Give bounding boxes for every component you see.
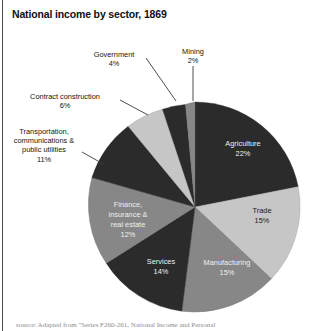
callout-contract-construction-name: Contract construction bbox=[18, 92, 112, 101]
slice-label-agriculture-value: 22% bbox=[236, 149, 251, 158]
callout-contract-construction-value: 6% bbox=[18, 101, 112, 110]
callout-government-name: Government bbox=[84, 50, 144, 59]
slice-label-agriculture-name: Agriculture bbox=[225, 139, 260, 148]
callout-mining: Mining 2% bbox=[164, 47, 222, 65]
slice-label-finance-line1: Finance, bbox=[114, 200, 142, 209]
slice-label-finance-line2: insurance & bbox=[108, 210, 147, 219]
slice-label-manufacturing-value: 15% bbox=[220, 268, 235, 277]
slice-label-trade-value: 15% bbox=[255, 216, 270, 225]
callout-government-value: 4% bbox=[84, 59, 144, 68]
slice-label-trade-name: Trade bbox=[252, 206, 271, 215]
callout-transportation-value: 11% bbox=[8, 155, 80, 164]
callout-transportation-line2: communications & bbox=[8, 136, 80, 145]
callout-contract-construction: Contract construction 6% bbox=[18, 92, 112, 110]
callout-mining-name: Mining bbox=[164, 47, 222, 56]
callout-transportation-line3: public utilities bbox=[8, 145, 80, 154]
callout-transportation-line1: Transportation, bbox=[8, 127, 80, 136]
slice-label-trade: Trade 15% bbox=[252, 206, 271, 225]
slice-label-services-name: Services bbox=[147, 257, 176, 266]
slice-label-finance-value: 12% bbox=[121, 230, 136, 239]
callout-mining-value: 2% bbox=[164, 56, 222, 65]
pie-chart: Agriculture 22% Trade 15% Manufacturing … bbox=[0, 0, 315, 331]
callout-transportation: Transportation, communications & public … bbox=[8, 127, 80, 164]
source-note: source: Adapted from "Series F260-261, N… bbox=[16, 321, 312, 330]
leader-line-contract-construction bbox=[120, 100, 148, 115]
slice-label-services-value: 14% bbox=[154, 267, 169, 276]
slice-label-manufacturing-name: Manufacturing bbox=[204, 258, 251, 267]
callout-government: Government 4% bbox=[84, 50, 144, 68]
chart-page: National income by sector, 1869 Agricult… bbox=[0, 0, 315, 331]
slice-label-finance-line3: real estate bbox=[111, 220, 146, 229]
